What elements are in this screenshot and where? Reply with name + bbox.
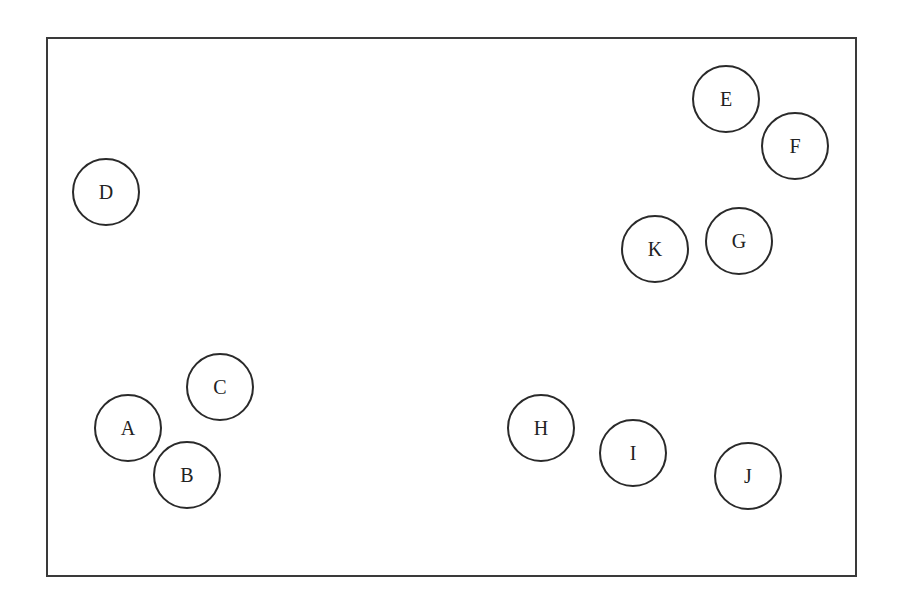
- node-j: J: [714, 442, 782, 510]
- node-g: G: [705, 207, 773, 275]
- node-label: I: [630, 442, 637, 465]
- node-e: E: [692, 65, 760, 133]
- node-label: K: [648, 238, 662, 261]
- node-label: A: [121, 417, 135, 440]
- node-label: G: [732, 230, 746, 253]
- node-i: I: [599, 419, 667, 487]
- node-k: K: [621, 215, 689, 283]
- node-c: C: [186, 353, 254, 421]
- node-label: E: [720, 88, 732, 111]
- node-label: J: [744, 465, 752, 488]
- node-b: B: [153, 441, 221, 509]
- node-label: F: [789, 135, 800, 158]
- node-h: H: [507, 394, 575, 462]
- node-label: B: [180, 464, 193, 487]
- node-label: H: [534, 417, 548, 440]
- node-a: A: [94, 394, 162, 462]
- node-d: D: [72, 158, 140, 226]
- node-f: F: [761, 112, 829, 180]
- node-label: C: [213, 376, 226, 399]
- node-label: D: [99, 181, 113, 204]
